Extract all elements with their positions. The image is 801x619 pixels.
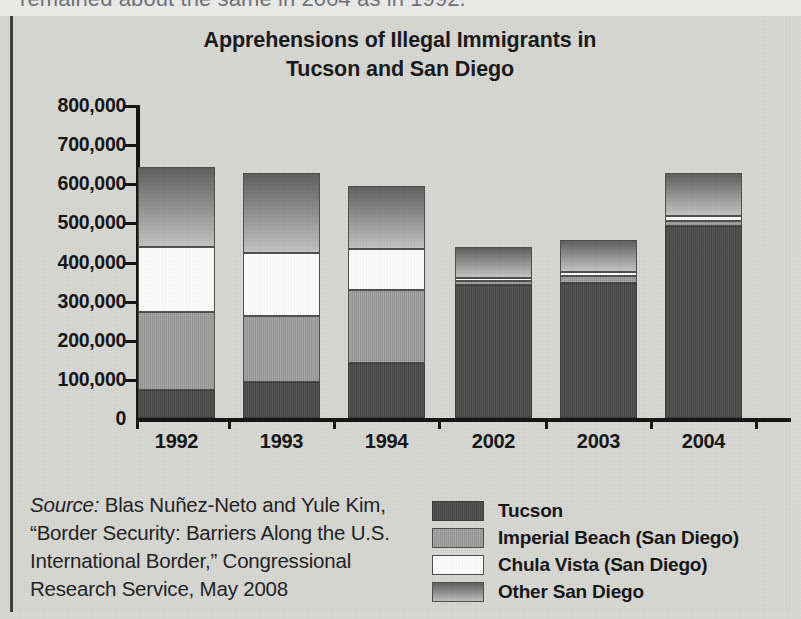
bar-segment-tucson[interactable] (665, 226, 742, 418)
legend-label: Imperial Beach (San Diego) (498, 527, 739, 549)
y-axis-tick (123, 144, 138, 147)
y-axis-tick-label: 100,000 (58, 368, 126, 391)
y-axis-labels: 800,000700,000600,000500,000400,000300,0… (0, 105, 126, 425)
y-axis-tick (123, 379, 138, 382)
legend-item[interactable]: Imperial Beach (San Diego) (432, 524, 739, 551)
y-axis-tick (123, 262, 138, 265)
bar-segment-chula-vista-san-diego[interactable] (348, 249, 425, 290)
x-axis-label-2002: 2002 (443, 430, 544, 453)
x-axis-tick (755, 418, 758, 429)
legend-item[interactable]: Other San Diego (432, 578, 739, 605)
x-axis-label-1994: 1994 (336, 430, 437, 453)
bar-segment-chula-vista-san-diego[interactable] (243, 253, 320, 316)
bar-1992[interactable] (138, 105, 215, 418)
bar-segment-chula-vista-san-diego[interactable] (665, 216, 742, 221)
y-axis-tick (123, 105, 138, 108)
y-axis-tick-label: 500,000 (58, 211, 126, 234)
bar-segment-imperial-beach-san-diego[interactable] (243, 316, 320, 382)
chart-legend: TucsonImperial Beach (San Diego)Chula Vi… (432, 497, 739, 605)
y-axis-tick (123, 222, 138, 225)
bar-segment-other-san-diego[interactable] (665, 173, 742, 216)
y-axis-tick-label: 200,000 (58, 329, 126, 352)
y-axis-tick-label: 700,000 (58, 133, 126, 156)
clipped-body-text: remained about the same in 2004 as in 19… (20, 0, 620, 12)
bar-segment-imperial-beach-san-diego[interactable] (348, 290, 425, 363)
bar-segment-other-san-diego[interactable] (138, 167, 215, 247)
legend-swatch-icon (432, 555, 484, 575)
legend-swatch-icon (432, 528, 484, 548)
y-axis-tick (123, 301, 138, 304)
bar-2004[interactable] (665, 105, 742, 418)
bar-segment-tucson[interactable] (138, 390, 215, 418)
y-axis-tick-label: 0 (115, 407, 126, 430)
bar-segment-imperial-beach-san-diego[interactable] (138, 312, 215, 390)
y-axis-tick-label: 600,000 (58, 172, 126, 195)
bar-segment-imperial-beach-san-diego[interactable] (560, 276, 637, 283)
legend-swatch-icon (432, 582, 484, 602)
legend-item[interactable]: Chula Vista (San Diego) (432, 551, 739, 578)
bar-segment-chula-vista-san-diego[interactable] (560, 272, 637, 276)
bar-1993[interactable] (243, 105, 320, 418)
bar-segment-chula-vista-san-diego[interactable] (455, 278, 532, 281)
x-axis-line (136, 418, 791, 422)
legend-swatch-icon (432, 501, 484, 521)
bar-segment-other-san-diego[interactable] (560, 240, 637, 272)
bar-segment-other-san-diego[interactable] (455, 247, 532, 278)
legend-label: Tucson (498, 500, 563, 522)
source-note: Source: Blas Nuñez-Neto and Yule Kim, “B… (30, 491, 430, 603)
x-axis-tick (545, 418, 548, 429)
chart-title-line-1: Apprehensions of Illegal Immigrants in (120, 26, 680, 55)
source-label: Source: (30, 493, 99, 516)
y-axis-tick-label: 400,000 (58, 251, 126, 274)
bar-segment-other-san-diego[interactable] (348, 186, 425, 249)
bar-segment-chula-vista-san-diego[interactable] (138, 247, 215, 311)
bar-segment-tucson[interactable] (455, 285, 532, 418)
bar-2002[interactable] (455, 105, 532, 418)
bar-segment-imperial-beach-san-diego[interactable] (455, 281, 532, 285)
legend-label: Chula Vista (San Diego) (498, 554, 707, 576)
legend-item[interactable]: Tucson (432, 497, 739, 524)
y-axis-tick-label: 300,000 (58, 290, 126, 313)
y-axis-tick (123, 340, 138, 343)
figure-page: remained about the same in 2004 as in 19… (0, 0, 801, 619)
x-axis-label-2003: 2003 (548, 430, 649, 453)
chart-title-line-2: Tucson and San Diego (120, 55, 680, 84)
x-axis-tick (333, 418, 336, 429)
bar-segment-tucson[interactable] (560, 283, 637, 418)
y-axis-tick-label: 800,000 (58, 94, 126, 117)
x-axis-tick (136, 418, 139, 429)
bar-segment-other-san-diego[interactable] (243, 173, 320, 253)
plot-area (136, 105, 791, 418)
x-axis-label-1992: 1992 (126, 430, 227, 453)
bar-1994[interactable] (348, 105, 425, 418)
x-axis-label-2004: 2004 (653, 430, 754, 453)
legend-label: Other San Diego (498, 581, 644, 603)
chart-title: Apprehensions of Illegal Immigrants in T… (120, 26, 680, 83)
bar-segment-tucson[interactable] (243, 382, 320, 418)
x-axis-tick (650, 418, 653, 429)
bar-2003[interactable] (560, 105, 637, 418)
bar-segment-imperial-beach-san-diego[interactable] (665, 221, 742, 226)
x-axis-tick (438, 418, 441, 429)
y-axis-tick (123, 183, 138, 186)
bar-segment-tucson[interactable] (348, 363, 425, 418)
x-axis-label-1993: 1993 (231, 430, 332, 453)
x-axis-tick (228, 418, 231, 429)
